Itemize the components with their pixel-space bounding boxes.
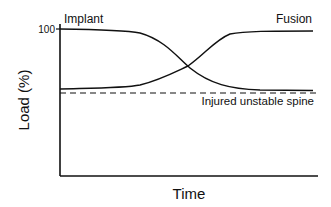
implant-label: Implant: [64, 12, 104, 26]
fusion-label: Fusion: [276, 12, 312, 26]
implant-curve: [60, 29, 313, 91]
y-axis-label: Load (%): [15, 70, 32, 131]
load-time-chart: 100 Implant Fusion Injured unstable spin…: [0, 0, 331, 207]
fusion-curve: [60, 31, 313, 89]
x-axis-label: Time: [173, 185, 206, 202]
y-tick-label-100: 100: [38, 24, 55, 35]
injured-unstable-spine-label: Injured unstable spine: [201, 95, 314, 107]
